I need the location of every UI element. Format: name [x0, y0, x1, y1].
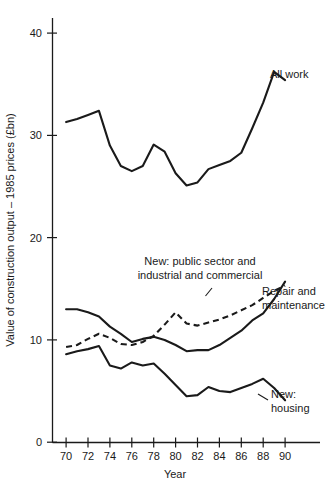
annotation-all-work: All work [270, 68, 309, 80]
leader-line-new-housing [258, 394, 268, 400]
x-tick-label-82: 82 [191, 450, 203, 462]
series-line-repair-and-maintenance [66, 282, 285, 352]
annotation-new-public-industrial: New: public sector and industrial and co… [138, 255, 263, 281]
y-tick-label-20: 20 [30, 232, 42, 244]
annotation-new-housing-line2: housing [271, 402, 310, 414]
x-tick-label-70: 70 [60, 450, 72, 462]
leader-line-new-public-industrial [206, 288, 213, 296]
annotation-new-housing: New: housing [271, 388, 310, 414]
y-tick-label-40: 40 [30, 27, 42, 39]
series-line-new-housing [66, 346, 285, 400]
x-axis-title: Year [164, 468, 187, 480]
y-axis-title: Value of construction output – 1985 pric… [4, 113, 16, 346]
annotation-repair-maintenance-line2: maintenance [262, 299, 325, 311]
x-tick-label-76: 76 [126, 450, 138, 462]
series-line-all-work [66, 72, 285, 186]
annotation-new-public-industrial-line1: New: public sector and [144, 255, 255, 267]
x-tick-label-86: 86 [235, 450, 247, 462]
x-tick-label-80: 80 [169, 450, 181, 462]
annotation-all-work-text: All work [270, 68, 309, 80]
x-tick-label-90: 90 [279, 450, 291, 462]
y-tick-label-30: 30 [30, 129, 42, 141]
y-tick-label-10: 10 [30, 334, 42, 346]
chart-canvas: 40 30 20 10 0 70 72 74 76 78 80 82 [0, 0, 336, 485]
x-tick-label-72: 72 [82, 450, 94, 462]
x-tick-label-74: 74 [104, 450, 116, 462]
x-tick-label-78: 78 [148, 450, 160, 462]
annotation-new-housing-line1: New: [271, 388, 296, 400]
annotation-repair-maintenance: Repair and maintenance [262, 285, 325, 311]
x-tick-label-88: 88 [257, 450, 269, 462]
annotation-new-public-industrial-line2: industrial and commercial [138, 269, 263, 281]
axes-group [53, 18, 321, 443]
x-tick-label-84: 84 [213, 450, 225, 462]
x-axis-ticks: 70 72 74 76 78 80 82 84 86 88 90 [60, 438, 291, 463]
y-tick-label-0: 0 [36, 436, 42, 448]
annotation-repair-maintenance-line1: Repair and [262, 285, 316, 297]
construction-output-chart: 40 30 20 10 0 70 72 74 76 78 80 82 [0, 0, 336, 485]
